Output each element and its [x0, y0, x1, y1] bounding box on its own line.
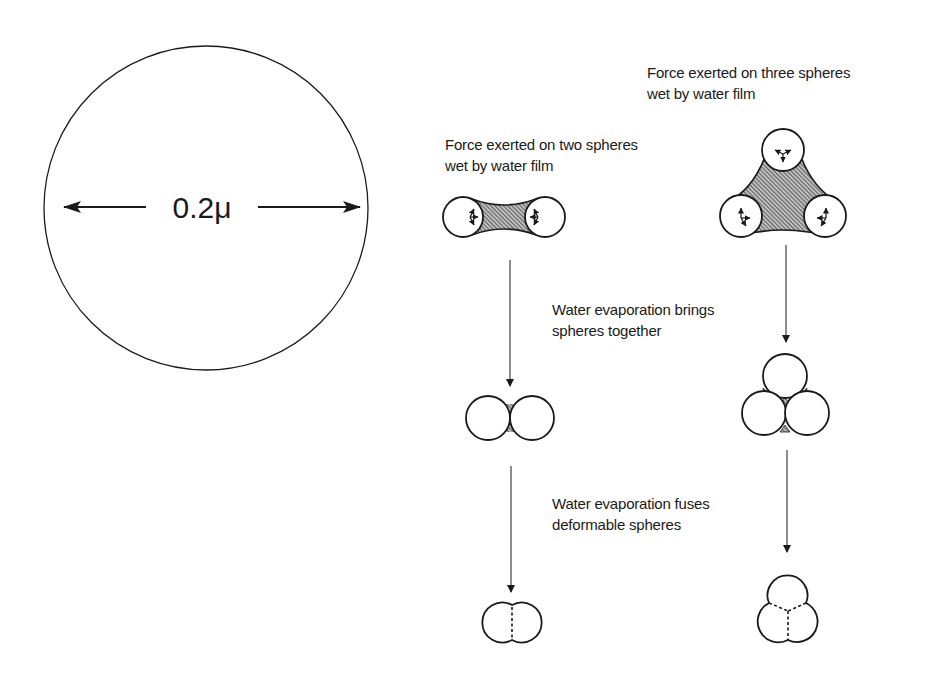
label-three-spheres-2: wet by water film	[646, 85, 755, 102]
sphere-bottom-right	[804, 195, 846, 237]
label-two-spheres-2: wet by water film	[444, 157, 553, 174]
fused-trio-boundary-right	[788, 603, 806, 611]
label-step1-2: spheres together	[552, 322, 662, 339]
label-step1-1: Water evaporation brings	[552, 301, 714, 318]
fused-trio-boundary-left	[769, 603, 788, 611]
sphere-fusion-diagram: 0.2μ Force exerted on two spheres wet by…	[0, 0, 938, 678]
scale-sphere: 0.2μ	[44, 46, 368, 370]
sphere-br-together	[785, 391, 829, 435]
sphere-bl-together	[742, 391, 786, 435]
sphere-top	[762, 129, 804, 171]
two-spheres-fused	[482, 602, 541, 642]
diameter-label: 0.2μ	[173, 191, 232, 224]
sphere-left-together	[466, 396, 510, 440]
three-spheres-together	[742, 354, 829, 435]
fused-trio-outline	[758, 575, 818, 642]
label-three-spheres-1: Force exerted on three spheres	[647, 64, 850, 81]
two-spheres-wet	[443, 197, 565, 237]
three-spheres-fused	[758, 575, 818, 642]
two-spheres-together	[466, 396, 554, 440]
label-step2-2: deformable spheres	[552, 516, 681, 533]
sphere-right-together	[510, 396, 554, 440]
label-two-spheres-1: Force exerted on two spheres	[445, 136, 638, 153]
label-step2-1: Water evaporation fuses	[552, 495, 709, 512]
three-spheres-wet	[720, 129, 846, 237]
